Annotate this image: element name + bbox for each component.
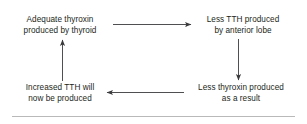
node-bottom-right-line-2: as a result [186,94,296,105]
node-bottom-left: Increased TTH will now be produced [12,83,108,104]
node-bottom-right-line-1: Less thyroxin produced [186,83,296,94]
node-top-right-line-1: Less TTH produced [194,15,292,26]
node-top-left-line-2: produced by thyroid [12,26,108,37]
node-top-right: Less TTH produced by anterior lobe [194,15,292,36]
node-top-left: Adequate thyroxin produced by thyroid [12,15,108,36]
node-top-left-line-1: Adequate thyroxin [12,15,108,26]
node-bottom-left-line-2: now be produced [12,94,108,105]
diagram-canvas: Adequate thyroxin produced by thyroid Le… [0,0,307,124]
node-bottom-left-line-1: Increased TTH will [12,83,108,94]
bottom-divider [12,116,295,117]
node-top-right-line-2: by anterior lobe [194,26,292,37]
node-bottom-right: Less thyroxin produced as a result [186,83,296,104]
